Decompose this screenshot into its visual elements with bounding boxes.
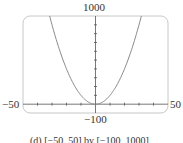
caption: (d) [−50, 50] by [−100, 1000] — [30, 135, 149, 143]
y-min-label: −100 — [84, 114, 107, 125]
y-max-label: 1000 — [83, 2, 105, 13]
x-max-label: 50 — [170, 99, 181, 110]
x-min-label: −50 — [2, 99, 19, 110]
